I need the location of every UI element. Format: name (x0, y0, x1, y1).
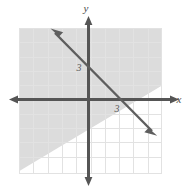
y-intercept-label: 3 (76, 62, 82, 73)
graph-svg: y x 3 3 (0, 0, 188, 194)
y-axis-label: y (83, 2, 89, 14)
y-axis-arrow-up (85, 16, 93, 25)
x-axis-arrow-left (9, 96, 18, 104)
coordinate-plane-figure: y x 3 3 (0, 0, 188, 194)
x-axis-label: x (176, 93, 182, 105)
y-axis-arrow-down (85, 177, 93, 186)
x-intercept-label: 3 (114, 103, 120, 114)
